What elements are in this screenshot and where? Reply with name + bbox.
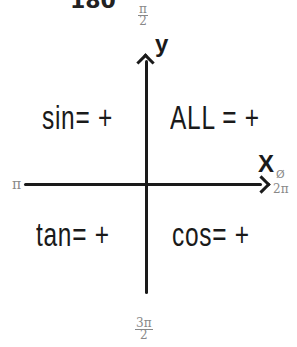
label-3pi-over-2: 3π 2 [135,318,153,341]
y-axis-line [145,60,148,294]
quadrant-1-all: ALL = + [170,98,260,137]
label-pi: π [12,176,21,192]
label-zero: Ø [276,168,285,181]
clipped-header-left: 180 [70,0,116,13]
y-axis-label: y [155,30,168,58]
label-pi-over-2: π 2 [138,4,148,27]
x-axis-arrow-icon [252,175,270,193]
clipped-header-text: 180 ·· [0,0,297,6]
y-axis-arrow-icon [136,53,154,71]
x-axis-line [24,183,262,186]
quadrant-4-cos: cos= + [172,215,250,254]
label-2pi: 2π [273,182,289,196]
clipped-header-right: ·· [270,0,281,4]
x-axis-label: X [258,150,274,178]
quadrant-2-sin: sin= + [42,98,113,137]
quadrant-3-tan: tan= + [36,215,110,254]
